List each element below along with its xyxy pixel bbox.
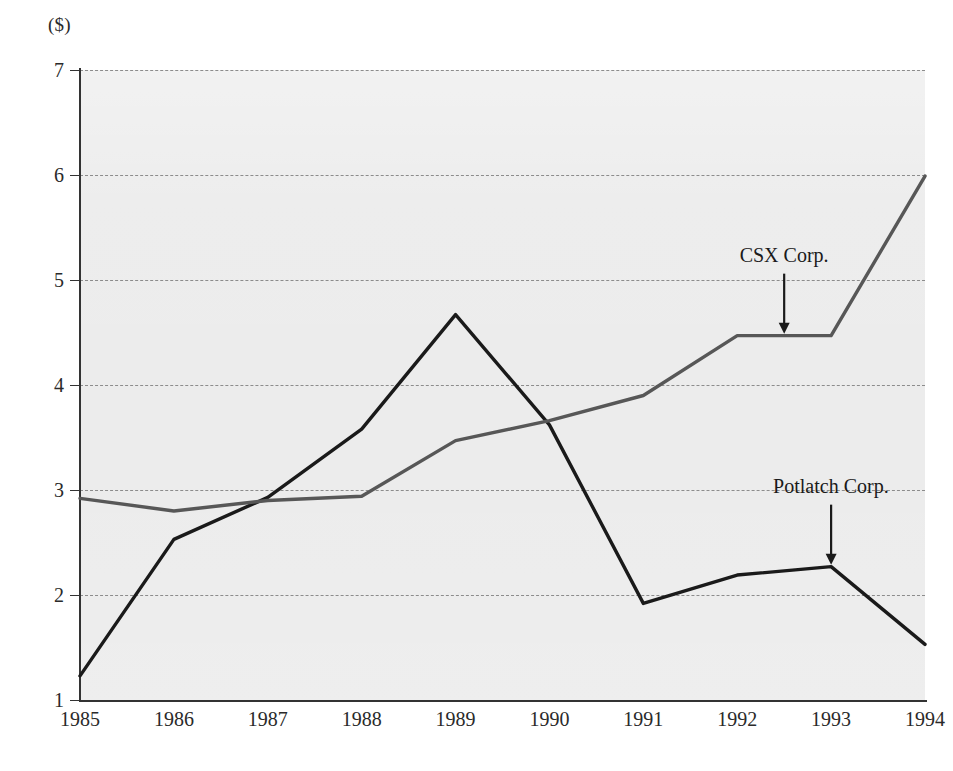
y-tick-label-6: 6 bbox=[36, 164, 64, 187]
x-tick-label-1989: 1989 bbox=[416, 708, 496, 731]
x-tick-label-1986: 1986 bbox=[134, 708, 214, 731]
y-tick-label-5: 5 bbox=[36, 269, 64, 292]
gridline-y-4 bbox=[80, 385, 925, 386]
x-tick-label-1985: 1985 bbox=[40, 708, 120, 731]
y-axis-unit-label: ($) bbox=[48, 14, 71, 36]
x-tick-label-1991: 1991 bbox=[603, 708, 683, 731]
annotation-label-csx: CSX Corp. bbox=[740, 244, 829, 267]
y-tick-label-7: 7 bbox=[36, 59, 64, 82]
x-tick-label-1994: 1994 bbox=[885, 708, 953, 731]
gridline-y-6 bbox=[80, 175, 925, 176]
y-tick-label-2: 2 bbox=[36, 584, 64, 607]
gridline-y-5 bbox=[80, 280, 925, 281]
x-tick-label-1988: 1988 bbox=[322, 708, 402, 731]
y-tick-label-3: 3 bbox=[36, 479, 64, 502]
gridline-y-7 bbox=[80, 70, 925, 71]
y-tick-label-4: 4 bbox=[36, 374, 64, 397]
annotation-label-potlatch: Potlatch Corp. bbox=[773, 475, 889, 498]
gridline-y-2 bbox=[80, 595, 925, 596]
x-axis-line bbox=[79, 700, 927, 702]
line-chart: ($) 1234567 1985198619871988198919901991… bbox=[0, 0, 953, 771]
x-tick-label-1992: 1992 bbox=[697, 708, 777, 731]
x-tick-label-1993: 1993 bbox=[791, 708, 871, 731]
y-axis-line bbox=[79, 68, 81, 702]
x-tick-label-1987: 1987 bbox=[228, 708, 308, 731]
x-tick-label-1990: 1990 bbox=[509, 708, 589, 731]
